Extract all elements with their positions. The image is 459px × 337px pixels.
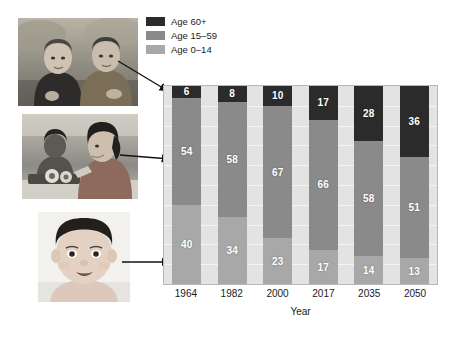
x-tick-1982: 1982: [209, 288, 255, 299]
x-tick-1964: 1964: [163, 288, 209, 299]
working-women-image: [22, 114, 138, 199]
legend: Age 60+ Age 15–59 Age 0–14: [146, 15, 217, 55]
bar-segment[interactable]: 17: [309, 250, 338, 284]
x-tick-2050: 2050: [392, 288, 438, 299]
bar-segment[interactable]: 66: [309, 120, 338, 251]
bar-segment[interactable]: 51: [400, 157, 429, 258]
bar-slot-1982: 85834: [210, 86, 256, 284]
bar-2017[interactable]: 176617: [309, 86, 338, 284]
bar-slot-2017: 176617: [301, 86, 347, 284]
bar-slot-2000: 106723: [255, 86, 301, 284]
bar-segment[interactable]: 58: [218, 102, 247, 217]
bar-segment[interactable]: 17: [309, 86, 338, 120]
x-tick-2000: 2000: [255, 288, 301, 299]
bar-2050[interactable]: 365113: [400, 86, 429, 284]
bar-1982[interactable]: 85834: [218, 86, 247, 284]
figure-root: Age 60+ Age 15–59 Age 0–14 6544085834106…: [0, 0, 459, 337]
baby-image: [38, 212, 130, 302]
bar-segment[interactable]: 14: [354, 256, 383, 284]
bar-segment[interactable]: 10: [263, 86, 292, 106]
bar-segment[interactable]: 54: [172, 98, 201, 205]
legend-item-age-0-14: Age 0–14: [146, 43, 217, 55]
bar-slot-1964: 65440: [164, 86, 210, 284]
x-axis-label: Year: [163, 306, 438, 317]
bar-2035[interactable]: 285814: [354, 86, 383, 284]
bar-segment[interactable]: 36: [400, 86, 429, 157]
legend-item-age-15-59: Age 15–59: [146, 29, 217, 41]
chart-bars: 6544085834106723176617285814365113: [164, 86, 437, 284]
legend-label-age-60-plus: Age 60+: [171, 16, 207, 27]
bar-segment[interactable]: 6: [172, 86, 201, 98]
bar-segment[interactable]: 28: [354, 86, 383, 141]
bar-segment[interactable]: 58: [354, 141, 383, 256]
working-women-photo: [22, 114, 138, 199]
bar-slot-2050: 365113: [392, 86, 438, 284]
x-tick-2035: 2035: [346, 288, 392, 299]
stacked-bar-chart: 6544085834106723176617285814365113: [163, 85, 438, 285]
elderly-couple-photo: [18, 18, 138, 106]
bar-2000[interactable]: 106723: [263, 86, 292, 284]
bar-segment[interactable]: 40: [172, 205, 201, 284]
bar-segment[interactable]: 34: [218, 217, 247, 284]
legend-label-age-0-14: Age 0–14: [171, 44, 212, 55]
x-tick-2017: 2017: [300, 288, 346, 299]
elderly-couple-image: [18, 18, 138, 106]
legend-swatch-age-0-14: [146, 45, 165, 54]
bar-1964[interactable]: 65440: [172, 86, 201, 284]
bar-segment[interactable]: 8: [218, 86, 247, 102]
baby-photo: [38, 212, 130, 302]
legend-swatch-age-60-plus: [146, 17, 165, 26]
legend-item-age-60-plus: Age 60+: [146, 15, 217, 27]
x-axis-ticks: 196419822000201720352050: [163, 288, 438, 299]
bar-segment[interactable]: 23: [263, 238, 292, 284]
bar-segment[interactable]: 67: [263, 106, 292, 239]
bar-slot-2035: 285814: [346, 86, 392, 284]
legend-swatch-age-15-59: [146, 31, 165, 40]
bar-segment[interactable]: 13: [400, 258, 429, 284]
legend-label-age-15-59: Age 15–59: [171, 30, 217, 41]
